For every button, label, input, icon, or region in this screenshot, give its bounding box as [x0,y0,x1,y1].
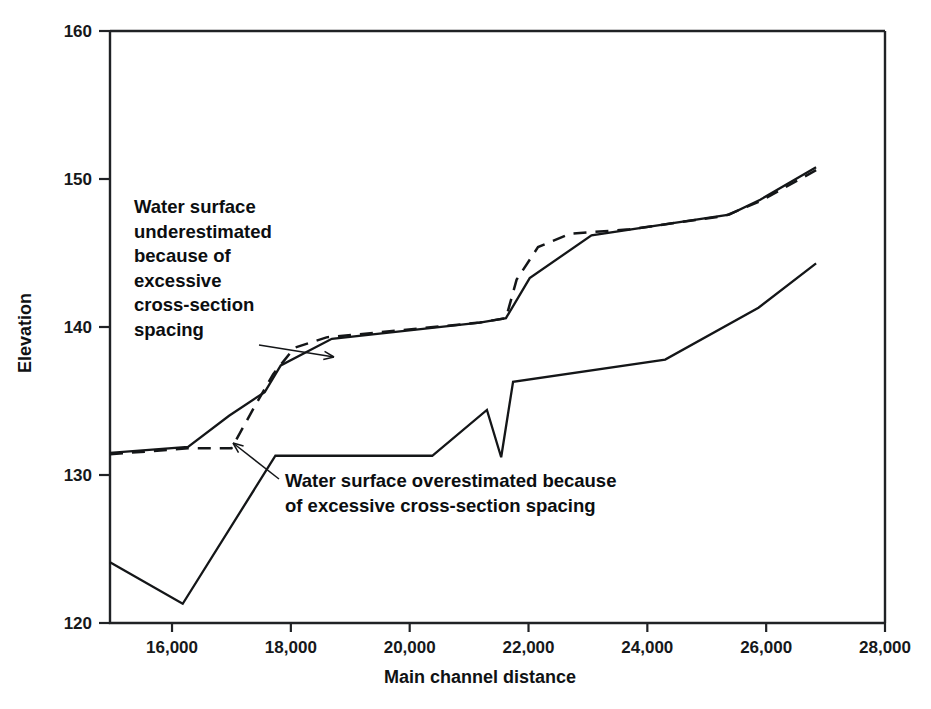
x-tick-label: 20,000 [384,638,436,657]
annotation-line: excessive [134,270,221,291]
y-axis-title: Elevation [15,293,35,373]
x-tick-label: 16,000 [146,638,198,657]
annotation-line: Water surface [134,196,256,217]
x-tick-labels: 16,00018,00020,00022,00024,00026,00028,0… [146,638,911,657]
y-tick-labels: 120130140150160 [64,22,92,633]
chart-svg: 16,00018,00020,00022,00024,00026,00028,0… [0,0,931,709]
annotation-line: underestimated [134,221,272,242]
y-tick-label: 140 [64,318,92,337]
axes-group [99,31,885,632]
annotation-line: Water surface overestimated because [285,470,616,491]
annotation-overestimated: Water surface overestimated becauseof ex… [233,443,616,516]
x-tick-marks [172,623,885,632]
annotation-line: because of [134,245,231,266]
x-tick-label: 24,000 [621,638,673,657]
chart-figure: 16,00018,00020,00022,00024,00026,00028,0… [0,0,931,709]
y-tick-marks [99,31,110,623]
y-tick-label: 130 [64,466,92,485]
y-tick-label: 160 [64,22,92,41]
y-tick-label: 150 [64,170,92,189]
annotation-line: cross-section [134,294,254,315]
y-tick-label: 120 [64,614,92,633]
x-axis-title: Main channel distance [384,667,576,687]
annotation-line: of excessive cross-section spacing [285,495,596,516]
annotation-underestimated: Water surfaceunderestimatedbecause ofexc… [134,196,334,359]
x-tick-label: 22,000 [503,638,555,657]
x-tick-label: 18,000 [265,638,317,657]
x-tick-label: 28,000 [859,638,911,657]
x-tick-label: 26,000 [740,638,792,657]
annotation-line: spacing [134,319,204,340]
